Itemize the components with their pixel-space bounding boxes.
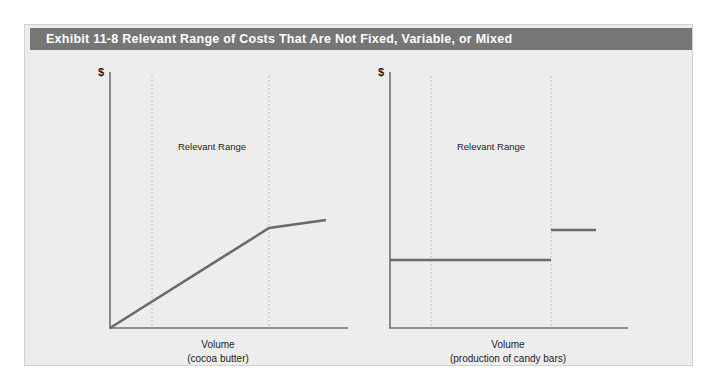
chart-candy-bars-svg: $ Relevant Range Volume (production of c… <box>368 54 692 365</box>
x-axis-subtitle: (cocoa butter) <box>187 353 249 364</box>
y-axis-label-dollar: $ <box>378 66 384 78</box>
exhibit-chart-body: $ Relevant Range Volume (cocoa butter) $ <box>30 54 692 365</box>
x-axis-title: Volume <box>491 339 525 350</box>
exhibit-title: Exhibit 11-8 Relevant Range of Costs Tha… <box>46 32 512 46</box>
x-axis-subtitle: (production of candy bars) <box>450 353 566 364</box>
y-axis-label-dollar: $ <box>98 66 104 78</box>
exhibit-title-bar: Exhibit 11-8 Relevant Range of Costs Tha… <box>30 28 692 50</box>
cost-line-cocoa-butter <box>110 220 326 328</box>
relevant-range-label: Relevant Range <box>457 141 525 152</box>
x-axis-title: Volume <box>201 339 235 350</box>
relevant-range-label: Relevant Range <box>178 141 246 152</box>
chart-cocoa-butter: $ Relevant Range Volume (cocoa butter) <box>68 54 368 365</box>
chart-cocoa-butter-svg: $ Relevant Range Volume (cocoa butter) <box>68 54 368 365</box>
chart-candy-bars: $ Relevant Range Volume (production of c… <box>368 54 692 365</box>
exhibit-root: Exhibit 11-8 Relevant Range of Costs Tha… <box>0 0 717 385</box>
